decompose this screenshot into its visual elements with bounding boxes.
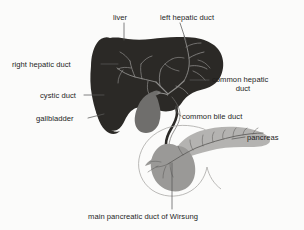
label-main-pancreatic-duct: main pancreatic duct of Wirsung (88, 212, 198, 221)
label-cystic-duct: cystic duct (40, 91, 76, 100)
label-common-hepatic-duct-line2: duct (212, 84, 274, 93)
label-right-hepatic-duct: right hepatic duct (12, 60, 71, 69)
diagram-canvas: liver left hepatic duct right hepatic du… (0, 0, 304, 230)
label-gallbladder: gallbladder (36, 114, 74, 123)
label-common-hepatic-duct: common hepatic duct (212, 75, 274, 93)
label-common-bile-duct: common bile duct (182, 112, 242, 121)
label-common-hepatic-duct-line1: common hepatic (212, 75, 268, 84)
label-left-hepatic-duct: left hepatic duct (160, 13, 214, 22)
label-liver: liver (113, 13, 127, 22)
label-pancreas: pancreas (247, 133, 279, 142)
